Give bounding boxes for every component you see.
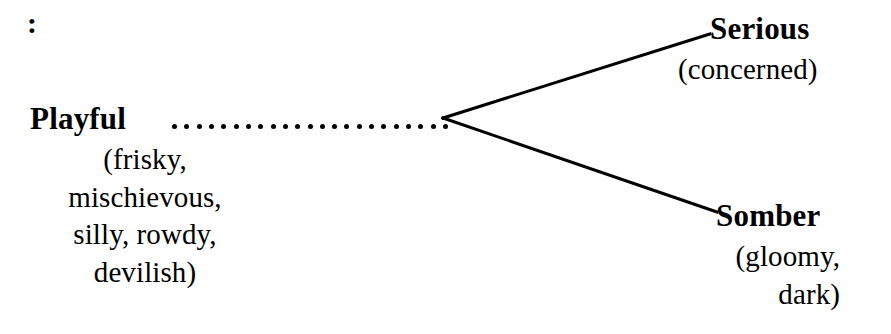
leader-dot xyxy=(344,124,349,129)
branch-node-synonyms: (gloomy, dark) xyxy=(682,237,840,314)
branch-synonym-line: (gloomy, xyxy=(682,237,840,275)
dot-leader-connector xyxy=(172,124,448,132)
branch-node-label: Serious xyxy=(710,13,818,44)
leader-dot xyxy=(357,124,362,129)
branch-line-upper xyxy=(443,34,710,118)
leader-dot xyxy=(295,124,300,129)
branch-node-synonyms: (concerned) xyxy=(678,50,818,88)
branch-node-somber: Somber (gloomy, dark) xyxy=(716,200,840,314)
leader-dot xyxy=(320,124,325,129)
leader-dot xyxy=(332,124,337,129)
branch-node-serious: Serious (concerned) xyxy=(710,13,818,88)
leader-dot xyxy=(418,124,423,129)
leader-dot xyxy=(184,124,189,129)
leader-dot xyxy=(283,124,288,129)
root-node-synonyms: (frisky, mischievous, silly, rowdy, devi… xyxy=(30,141,260,292)
leader-dot xyxy=(258,124,263,129)
stray-colon-marker: : xyxy=(27,8,37,38)
leader-dot xyxy=(406,124,411,129)
branch-node-label: Somber xyxy=(716,200,840,231)
leader-dot xyxy=(369,124,374,129)
leader-dot xyxy=(431,124,436,129)
root-synonym-line: silly, rowdy, xyxy=(30,216,260,254)
leader-dot xyxy=(443,124,448,129)
leader-dot xyxy=(381,124,386,129)
root-synonym-line: mischievous, xyxy=(30,179,260,217)
leader-dot xyxy=(308,124,313,129)
branch-line-lower xyxy=(443,118,717,212)
leader-dot xyxy=(234,124,239,129)
leader-dot xyxy=(221,124,226,129)
branch-synonym-line: dark) xyxy=(682,275,840,313)
root-synonym-line: devilish) xyxy=(30,254,260,292)
diagram-canvas: : Playful (frisky, mischievous, silly, r… xyxy=(0,0,891,334)
leader-dot xyxy=(394,124,399,129)
root-synonym-line: (frisky, xyxy=(30,141,260,179)
leader-dot xyxy=(209,124,214,129)
branch-synonym-line: (concerned) xyxy=(678,50,818,88)
leader-dot xyxy=(246,124,251,129)
leader-dot xyxy=(172,124,177,129)
leader-dot xyxy=(197,124,202,129)
leader-dot xyxy=(271,124,276,129)
